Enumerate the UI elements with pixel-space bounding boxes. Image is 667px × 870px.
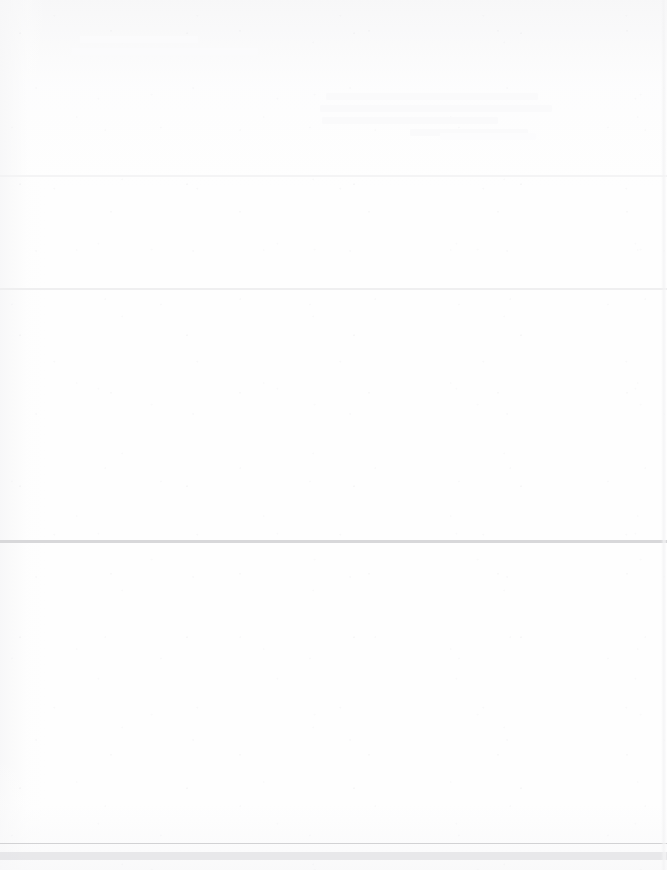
paper-background — [0, 0, 667, 870]
scanned-document-page — [0, 0, 667, 870]
